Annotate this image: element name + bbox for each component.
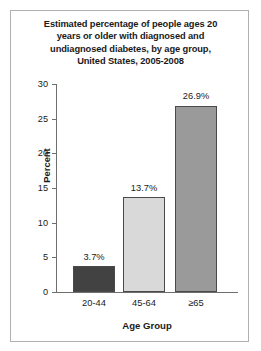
- y-axis-line: [56, 84, 57, 293]
- x-axis-label-45-64: 45-64: [115, 298, 173, 308]
- y-axis-tick-label-10: 10: [26, 219, 48, 228]
- chart-title-line-4: United States, 2005-2008: [16, 55, 245, 67]
- chart-title-line-2: years or older with diagnosed and: [16, 30, 245, 42]
- x-axis-line: [56, 292, 238, 293]
- y-axis-tick-5: [52, 257, 56, 258]
- bar-20-44: [73, 266, 115, 292]
- bar-value-label-≥65: 26.9%: [169, 91, 223, 101]
- y-axis-tick-0: [52, 292, 56, 293]
- bar-45-64: [123, 197, 165, 292]
- y-axis-tick-label-25: 25: [26, 115, 48, 124]
- chart-figure: Estimated percentage of people ages 20 y…: [0, 0, 261, 351]
- y-axis-tick-15: [52, 188, 56, 189]
- chart-title: Estimated percentage of people ages 20 y…: [16, 18, 245, 68]
- chart-title-line-1: Estimated percentage of people ages 20: [16, 18, 245, 30]
- y-axis-tick-25: [52, 119, 56, 120]
- bar-value-label-45-64: 13.7%: [117, 183, 171, 193]
- bar-≥65: [175, 106, 217, 293]
- y-axis-tick-label-0: 0: [26, 288, 48, 297]
- y-axis-tick-10: [52, 223, 56, 224]
- x-axis-title: Age Group: [56, 320, 238, 331]
- y-axis-tick-label-30: 30: [26, 80, 48, 89]
- y-axis-tick-30: [52, 84, 56, 85]
- x-axis-label-≥65: ≥65: [167, 298, 225, 308]
- chart-title-line-3: undiagnosed diabetes, by age group,: [16, 43, 245, 55]
- y-axis-tick-20: [52, 153, 56, 154]
- y-axis-title: Percent: [41, 136, 52, 196]
- bar-value-label-20-44: 3.7%: [67, 252, 121, 262]
- y-axis-tick-label-5: 5: [26, 253, 48, 262]
